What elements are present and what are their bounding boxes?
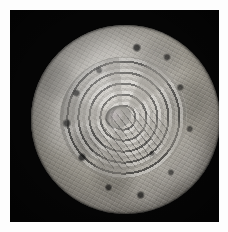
body-limb-edge — [31, 25, 219, 214]
basin-label: multi-ring impact basin — [0, 0, 1, 1]
illumination-label: from upper left — [0, 0, 1, 1]
image-canvas: Spherical icy body, polar view multi-rin… — [0, 0, 228, 232]
image-subject-label: Spherical icy body, polar view — [0, 0, 1, 1]
black-backdrop — [10, 10, 219, 222]
spherical-body — [31, 25, 219, 214]
